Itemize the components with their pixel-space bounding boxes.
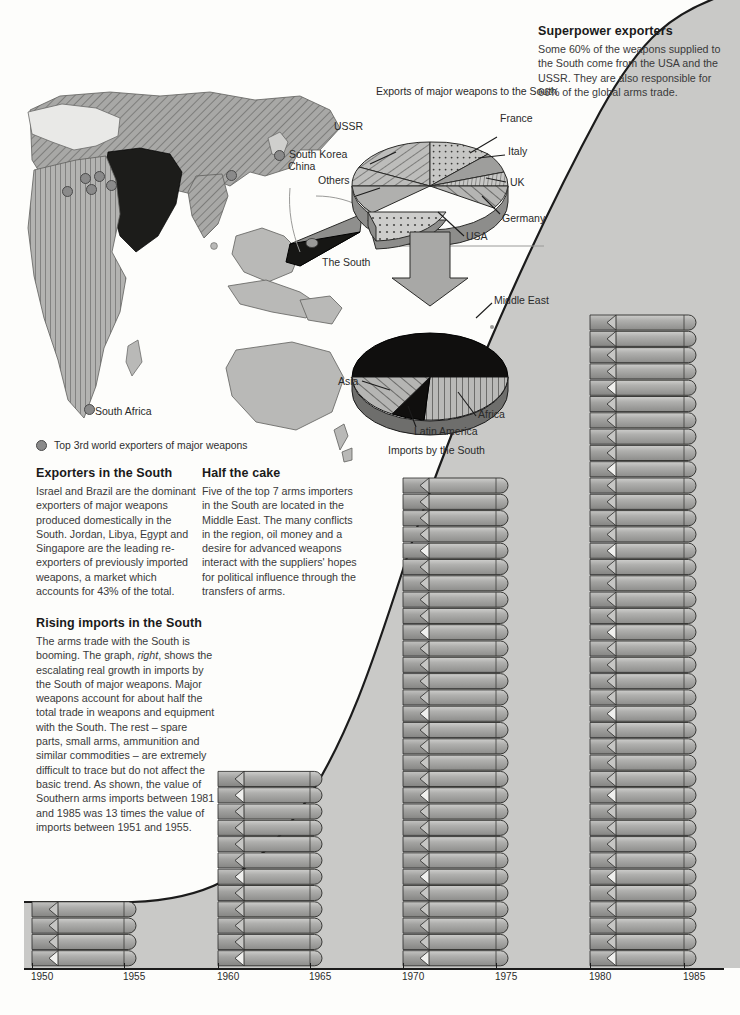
x-axis-tick [403,963,404,968]
pie-label-germany: Germany [502,212,545,224]
exporter-dot [226,170,237,181]
text-block-exporters-in-the-south: Exporters in the South Israel and Brazil… [36,466,202,598]
pie-label-africa: Africa [478,408,505,420]
legend-label: Top 3rd world exporters of major weapons [54,440,247,451]
exporter-dot [86,184,97,195]
x-axis-year-label: 1950 [31,971,53,982]
bar-1961-1965 [218,771,322,965]
x-axis-year-label: 1955 [123,971,145,982]
body-half-the-cake: Five of the top 7 arms importers in the … [202,484,360,598]
pie-imports-title: Imports by the South [388,444,485,456]
exporter-dot [106,180,117,191]
x-axis-tick [218,963,219,968]
pie-label-latin-america: Latin America [414,425,478,437]
x-axis-tick [124,963,125,968]
the-south-label: The South [322,256,370,268]
pie-label-ussr: USSR [334,120,363,132]
bar-1971-1975 [403,478,508,966]
infographic-page: China South Korea South Africa Top 3rd w… [0,0,740,1015]
heading-rising-imports: Rising imports in the South [36,616,216,630]
pie-label-france: France [500,112,533,124]
exporter-dot [62,186,73,197]
text-block-superpower-exporters: Superpower exporters Some 60% of the wea… [538,24,726,99]
heading-exporters-in-the-south: Exporters in the South [36,466,202,480]
pie-label-uk: UK [510,176,525,188]
pie-label-middle-east: Middle East [494,294,549,306]
body-rising-emphasis: right [137,649,158,661]
bar-1981-1985 [590,315,696,966]
body-superpower-exporters: Some 60% of the weapons supplied to the … [538,42,726,99]
pie-label-usa: USA [466,230,488,242]
x-axis-year-label: 1975 [495,971,517,982]
exporter-dot [94,171,105,182]
x-axis-tick [310,963,311,968]
map-legend: Top 3rd world exporters of major weapons [36,440,247,451]
x-axis-year-label: 1970 [402,971,424,982]
x-axis-line [24,968,724,970]
pie-exports-title: Exports of major weapons to the South [376,85,557,97]
pie-label-italy: Italy [508,145,527,157]
exporter-dot [84,404,95,415]
x-axis-year-label: 1965 [309,971,331,982]
text-block-rising-imports: Rising imports in the South The arms tra… [36,616,216,834]
body-rising-part2: , shows the escalating real growth in im… [36,649,214,833]
x-axis-year-label: 1985 [683,971,705,982]
body-exporters-in-the-south: Israel and Brazil are the dominant expor… [36,484,202,598]
x-axis-tick [684,963,685,968]
x-axis-year-label: 1960 [217,971,239,982]
x-axis-year-label: 1980 [589,971,611,982]
pie-label-asia: Asia [338,375,358,387]
exporter-dot [274,150,285,161]
x-axis-tick [496,963,497,968]
exporter-dot [80,173,91,184]
pie-label-others: Others [318,174,350,186]
legend-marker-icon [36,440,47,451]
bar-1951-1955 [32,902,136,966]
body-rising-imports: The arms trade with the South is booming… [36,634,216,834]
text-block-half-the-cake: Half the cake Five of the top 7 arms imp… [202,466,360,598]
x-axis-tick [590,963,591,968]
x-axis-tick [32,963,33,968]
heading-superpower-exporters: Superpower exporters [538,24,726,38]
heading-half-the-cake: Half the cake [202,466,360,480]
